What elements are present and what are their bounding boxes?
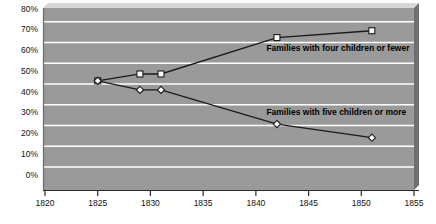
chart-container: 80% 70% 60% 50% 40% 30% 20% 10% 0% 1820 … (0, 0, 436, 224)
x-tick-label: 1820 (36, 198, 55, 208)
x-tick-label: 1850 (352, 198, 371, 208)
data-point-marker (158, 71, 164, 77)
data-point-marker (274, 35, 280, 41)
x-tick-label: 1845 (299, 198, 318, 208)
x-tick-label: 1855 (405, 198, 424, 208)
series-label-four-children-or-fewer: Families with four children or fewer (266, 43, 410, 53)
x-tick-label: 1840 (246, 198, 265, 208)
y-tick-label: 20% (21, 128, 38, 138)
series-label-five-children-or-more: Families with five children or more (266, 107, 406, 117)
x-tick-label: 1835 (194, 198, 213, 208)
plot-top-bevel (43, 3, 419, 8)
y-tick-label: 10% (21, 149, 38, 159)
line-chart: 80% 70% 60% 50% 40% 30% 20% 10% 0% 1820 … (0, 0, 436, 224)
y-tick-label: 0% (26, 170, 39, 180)
y-tick-label: 80% (21, 4, 38, 14)
y-tick-label: 50% (21, 66, 38, 76)
y-tick-label: 30% (21, 107, 38, 117)
x-axis-tick-labels: 1820 1825 1830 1835 1840 1845 1850 1855 (36, 198, 424, 208)
data-point-marker (137, 71, 143, 77)
y-tick-label: 60% (21, 45, 38, 55)
data-point-marker (369, 28, 375, 34)
y-tick-label: 70% (21, 24, 38, 34)
x-axis-ticks (45, 191, 414, 197)
y-axis-tick-labels: 80% 70% 60% 50% 40% 30% 20% 10% 0% (21, 4, 38, 180)
y-tick-label: 40% (21, 87, 38, 97)
x-tick-label: 1825 (88, 198, 107, 208)
plot-area-background (43, 8, 414, 190)
x-tick-label: 1830 (141, 198, 160, 208)
plot-right-bevel (414, 3, 419, 190)
